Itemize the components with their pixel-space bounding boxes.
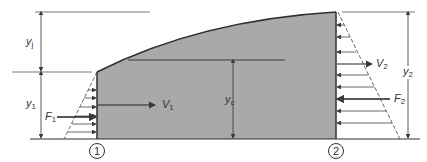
label-v1: V1 [162,99,174,112]
pressure-arrows-1 [68,90,96,132]
label-y2: y2 [403,66,413,79]
label-f2: F2 [394,93,405,106]
label-yc: yc [225,94,235,107]
label-f1: F1 [45,111,56,124]
label-y1: y1 [26,98,36,111]
hydraulic-jump-diagram: yj y1 F1 V1 yc V2 y2 F2 1 2 [0,0,427,162]
diagram-drawing [0,0,427,162]
label-v2: V2 [376,58,388,71]
pressure-arrows-2 [337,25,392,123]
pressure-triangle-1 [64,72,97,139]
pressure-triangle-2 [338,12,400,139]
section-2-marker: 2 [328,143,344,159]
water-region [97,12,336,139]
section-1-marker: 1 [89,143,105,159]
label-yj: yj [26,36,33,49]
